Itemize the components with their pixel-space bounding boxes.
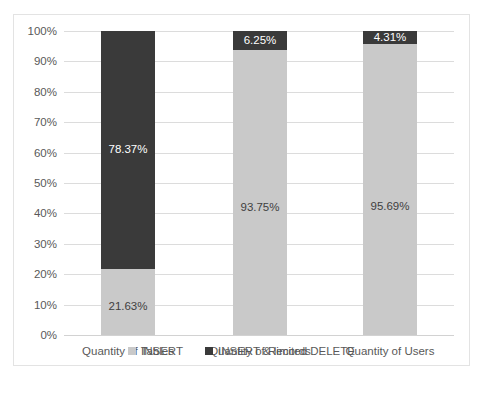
- y-tick-label-60: 60%: [34, 147, 57, 159]
- legend-item-insert-limited-delete[interactable]: INSERT & limited DELETE: [205, 345, 355, 357]
- y-tick-label-30: 30%: [34, 238, 57, 250]
- figure-caption: [14, 376, 472, 394]
- bar-value-label-users-delete: 4.31%: [374, 32, 407, 44]
- bar-value-label-records-delete: 6.25%: [244, 35, 277, 47]
- plot-area: 100% 90% 80% 70% 60% 50% 40% 30% 20% 10%…: [64, 31, 454, 335]
- bar-segment-tables-insert-limited-delete[interactable]: 78.37%: [101, 31, 155, 269]
- stacked-bar-tables[interactable]: 78.37% 21.63%: [101, 31, 155, 335]
- legend-swatch-icon-insert-limited-delete: [205, 347, 213, 355]
- stacked-bar-records[interactable]: 6.25% 93.75%: [233, 31, 287, 335]
- legend-swatch-icon-insert: [128, 347, 136, 355]
- y-tick-label-50: 50%: [34, 177, 57, 189]
- bar-segment-tables-insert[interactable]: 21.63%: [101, 269, 155, 335]
- y-tick-label-10: 10%: [34, 299, 57, 311]
- legend-label-insert: INSERT: [141, 345, 183, 357]
- bar-group-records: 6.25% 93.75% Quantity of Records: [233, 31, 287, 335]
- legend-label-insert-limited-delete: INSERT & limited DELETE: [218, 345, 355, 357]
- bar-segment-records-insert-limited-delete[interactable]: 6.25%: [233, 31, 287, 50]
- bar-value-label-tables-delete: 78.37%: [108, 144, 147, 156]
- chart-legend: INSERT INSERT & limited DELETE: [14, 345, 469, 357]
- y-tick-label-70: 70%: [34, 116, 57, 128]
- y-tick-label-20: 20%: [34, 268, 57, 280]
- y-tick-label-80: 80%: [34, 86, 57, 98]
- bar-value-label-tables-insert: 21.63%: [108, 301, 147, 313]
- bar-value-label-records-insert: 93.75%: [240, 202, 279, 214]
- y-tick-label-100: 100%: [28, 25, 57, 37]
- bar-group-tables: 78.37% 21.63% Quantity of Tables: [101, 31, 155, 335]
- y-tick-label-0: 0%: [40, 329, 57, 341]
- chart-frame: 100% 90% 80% 70% 60% 50% 40% 30% 20% 10%…: [13, 14, 470, 366]
- bar-value-label-users-insert: 95.69%: [370, 201, 409, 213]
- y-tick-label-90: 90%: [34, 55, 57, 67]
- legend-item-insert[interactable]: INSERT: [128, 345, 183, 357]
- bar-segment-users-insert-limited-delete[interactable]: 4.31%: [363, 31, 417, 44]
- y-tick-label-40: 40%: [34, 207, 57, 219]
- bar-group-users: 4.31% 95.69% Quantity of Users: [363, 31, 417, 335]
- stacked-bar-users[interactable]: 4.31% 95.69%: [363, 31, 417, 335]
- bar-segment-users-insert[interactable]: 95.69%: [363, 44, 417, 335]
- bar-segment-records-insert[interactable]: 93.75%: [233, 50, 287, 335]
- gridline-0: [64, 335, 454, 336]
